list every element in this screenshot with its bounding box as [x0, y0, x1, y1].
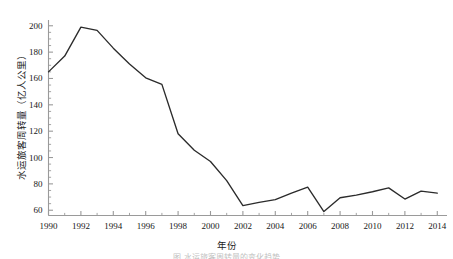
x-axis-title: 年份: [0, 238, 453, 252]
chart-axes: [49, 20, 448, 216]
x-axis-tick-label: 1994: [104, 221, 122, 231]
x-axis-tick-label: 2004: [266, 221, 284, 231]
x-axis-tick-label: 2012: [396, 221, 414, 231]
x-axis-tick-label: 2010: [363, 221, 381, 231]
x-axis-tick-label: 1992: [72, 221, 90, 231]
y-axis-title: 水运旅客周转量（亿人公里）: [14, 20, 28, 210]
chart-figure: 6080100120140160180200 19901992199419961…: [0, 0, 453, 259]
x-axis-tick-label: 1990: [40, 221, 58, 231]
x-axis-tick-label: 2006: [299, 221, 317, 231]
x-axis-tick-label: 2000: [201, 221, 219, 231]
x-axis-tick-label: 2002: [234, 221, 252, 231]
line-chart-plot: [0, 0, 453, 259]
x-axis-tick-label: 2014: [428, 221, 446, 231]
x-axis-tick-label: 2008: [331, 221, 349, 231]
figure-caption: 图 水运旅客周转量的变化趋势: [0, 251, 453, 259]
chart-series: [49, 27, 438, 211]
data-line: [49, 27, 438, 211]
x-axis-tick-label: 1996: [137, 221, 155, 231]
x-axis-tick-label: 1998: [169, 221, 187, 231]
